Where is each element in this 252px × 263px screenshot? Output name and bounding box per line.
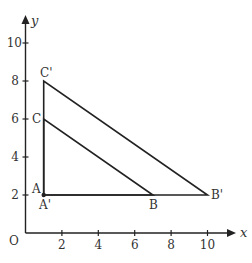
triangle-a-prime-b-prime-c-prime [44, 81, 208, 195]
label-a: A [31, 182, 41, 196]
x-tick-label-6: 6 [131, 238, 139, 252]
y-tick-label-6: 6 [11, 112, 19, 126]
label-c: C [32, 112, 41, 126]
coordinate-diagram: y x O 2 4 6 8 10 2 4 6 8 10 A A' B [0, 0, 252, 263]
label-b: B [149, 198, 158, 212]
y-tick-label-10: 10 [7, 36, 22, 50]
y-tick-label-8: 8 [11, 74, 19, 88]
label-a-prime: A' [38, 198, 51, 212]
x-axis-label: x [240, 225, 248, 240]
origin-label: O [9, 234, 19, 248]
axes: y x O [9, 13, 248, 248]
x-tick-label-2: 2 [58, 238, 66, 252]
label-b-prime: B' [211, 188, 223, 202]
label-c-prime: C' [40, 66, 52, 80]
y-tick-label-4: 4 [11, 150, 19, 164]
x-tick-label-10: 10 [200, 238, 215, 252]
y-axis-arrow-icon [22, 15, 30, 24]
triangle-abc [44, 119, 153, 195]
x-tick-label-8: 8 [167, 238, 175, 252]
y-axis-label: y [30, 13, 39, 28]
x-axis-arrow-icon [227, 229, 236, 237]
y-tick-label-2: 2 [11, 188, 19, 202]
point-a-dot [42, 193, 46, 197]
x-tick-label-4: 4 [94, 238, 102, 252]
